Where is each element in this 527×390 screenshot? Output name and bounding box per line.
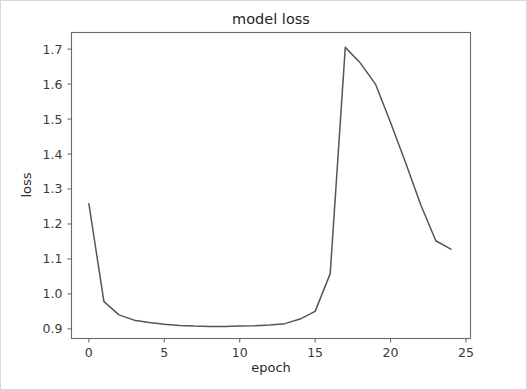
y-axis-ticks: 0.91.01.11.21.31.41.51.61.7 <box>43 42 72 337</box>
data-line-loss <box>89 47 451 326</box>
plot-area-frame <box>72 33 471 339</box>
x-tick-label: 0 <box>85 345 93 360</box>
x-tick-label: 15 <box>307 345 323 360</box>
x-tick-label: 5 <box>160 345 168 360</box>
x-axis-ticks: 0510152025 <box>85 339 474 360</box>
y-tick-label: 1.7 <box>43 42 63 57</box>
y-tick-label: 1.5 <box>43 112 63 127</box>
chart-title: model loss <box>232 11 310 27</box>
x-axis-title: epoch <box>251 360 291 375</box>
line-chart: model loss loss epoch 0.91.01.11.21.31.4… <box>1 1 527 390</box>
y-tick-label: 1.0 <box>43 286 63 301</box>
y-tick-label: 1.2 <box>43 216 63 231</box>
x-tick-label: 20 <box>383 345 399 360</box>
y-axis-title: loss <box>19 172 34 197</box>
y-tick-label: 1.3 <box>43 181 63 196</box>
y-tick-label: 1.4 <box>43 147 63 162</box>
x-tick-label: 10 <box>232 345 248 360</box>
x-tick-label: 25 <box>458 345 474 360</box>
y-tick-label: 1.1 <box>43 251 63 266</box>
data-series-group <box>89 47 451 326</box>
y-tick-label: 0.9 <box>43 321 63 336</box>
y-tick-label: 1.6 <box>43 77 63 92</box>
figure-canvas: model loss loss epoch 0.91.01.11.21.31.4… <box>0 0 527 390</box>
